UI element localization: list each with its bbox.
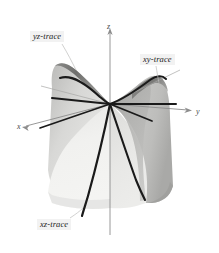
z-axis-label: z <box>107 22 110 31</box>
y-axis-arrowhead <box>184 108 192 113</box>
x-axis-label: x <box>17 122 21 131</box>
xy-trace-label: xy-trace <box>140 54 175 65</box>
x-axis-arrowhead <box>22 126 30 131</box>
yz-trace-label: yz-trace <box>30 31 64 42</box>
xz-trace-label: xz-trace <box>37 219 71 230</box>
surface-figure: yz-trace xy-trace xz-trace z y x <box>0 0 219 253</box>
y-axis-label: y <box>196 107 200 116</box>
